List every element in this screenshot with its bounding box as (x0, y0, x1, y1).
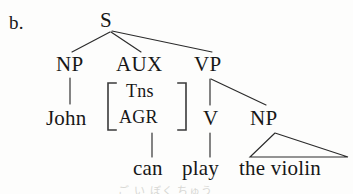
tree-node-vp: VP (194, 54, 221, 75)
feature-agr: AGR (119, 108, 158, 126)
tree-node-aux: AUX (116, 54, 162, 75)
tree-node-v: V (203, 108, 218, 129)
edge-s-vp (112, 31, 212, 52)
feature-tns: Tns (126, 82, 154, 100)
tree-node-np-object: NP (250, 108, 277, 129)
terminal-john: John (46, 108, 86, 129)
matrix-bracket-right (178, 83, 186, 130)
edge-s-np (72, 32, 110, 52)
terminal-play: play (182, 158, 219, 179)
matrix-bracket-left (108, 83, 116, 130)
edge-vp-np (211, 79, 266, 105)
terminal-can: can (133, 158, 163, 179)
tree-node-np-subject: NP (56, 54, 83, 75)
edge-s-aux (111, 32, 141, 52)
figure-item-label: b. (9, 13, 24, 32)
figure-canvas: ご い ぼく ちゅう b. (0, 0, 353, 194)
edge-np-theviolin-triangle (250, 133, 348, 157)
terminal-the-violin: the violin (239, 158, 321, 179)
tree-node-s: S (100, 10, 112, 31)
